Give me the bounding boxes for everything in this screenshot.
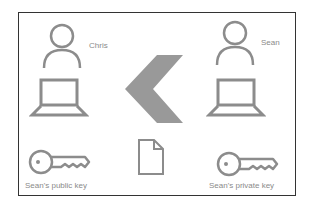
sean-label: Sean xyxy=(261,38,280,47)
arrow-left-icon xyxy=(123,55,185,123)
chris-label: Chris xyxy=(89,41,108,50)
private-key-label: Sean's private key xyxy=(209,181,274,190)
document-icon xyxy=(136,138,166,176)
laptop-icon-right xyxy=(206,78,266,118)
laptop-icon-left xyxy=(29,78,89,118)
diagram-frame: Chris Sean xyxy=(18,12,296,196)
person-icon-sean xyxy=(214,18,256,66)
person-icon-chris xyxy=(41,21,83,69)
public-key-icon xyxy=(27,147,91,177)
public-key-label: Sean's public key xyxy=(25,181,87,190)
private-key-icon xyxy=(215,149,279,179)
